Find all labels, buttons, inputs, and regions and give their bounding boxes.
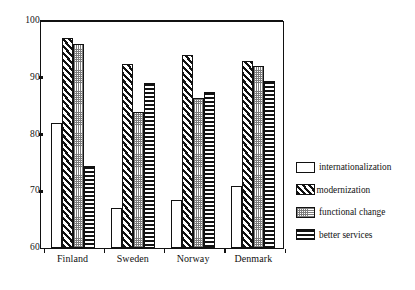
legend-item-modernization[interactable]: modernization bbox=[296, 181, 415, 199]
bar-norway-modernization bbox=[182, 55, 193, 248]
bar-sweden-functional-change bbox=[133, 112, 144, 248]
legend: internationalizationmodernizationfunctio… bbox=[296, 158, 415, 248]
swatch-dotted-icon bbox=[296, 207, 315, 218]
bar-norway-functional-change bbox=[193, 98, 204, 248]
y-tick-label-80: 80 bbox=[10, 130, 40, 140]
x-tick-1 bbox=[104, 249, 105, 253]
bar-finland-better-services bbox=[84, 166, 95, 248]
bar-denmark-better-services bbox=[264, 81, 275, 248]
bar-denmark-modernization bbox=[242, 61, 253, 248]
bar-group-sweden bbox=[111, 21, 155, 248]
bar-sweden-better-services bbox=[144, 83, 155, 248]
y-tick-label-70: 70 bbox=[10, 186, 40, 196]
swatch-horizontal-icon bbox=[296, 229, 315, 240]
bar-norway-internationalization bbox=[171, 200, 182, 248]
y-tick-label-100: 100 bbox=[10, 16, 40, 26]
swatch-diagonal-icon bbox=[296, 184, 315, 195]
bar-denmark-internationalization bbox=[231, 186, 242, 248]
y-axis: 10090807060 bbox=[0, 0, 40, 290]
plot-right-rule bbox=[283, 21, 285, 249]
chart-root: 10090807060 internationalizationmoderniz… bbox=[0, 0, 415, 290]
bar-norway-better-services bbox=[204, 92, 215, 248]
x-tick-0 bbox=[44, 249, 45, 253]
legend-label-internationalization: internationalization bbox=[319, 162, 391, 172]
legend-item-functional-change[interactable]: functional change bbox=[296, 203, 415, 221]
bar-group-norway bbox=[171, 21, 215, 248]
bar-finland-functional-change bbox=[73, 44, 84, 248]
bar-sweden-modernization bbox=[122, 64, 133, 248]
y-tick-label-60: 60 bbox=[10, 243, 40, 253]
bar-denmark-functional-change bbox=[253, 66, 264, 248]
bar-sweden-internationalization bbox=[111, 208, 122, 248]
bar-finland-internationalization bbox=[51, 123, 62, 248]
bar-finland-modernization bbox=[62, 38, 73, 248]
x-tick-3 bbox=[224, 249, 225, 253]
y-tick-mark-80 bbox=[39, 133, 43, 136]
bar-groups bbox=[42, 21, 283, 248]
y-tick-mark-70 bbox=[39, 190, 43, 193]
legend-item-better-services[interactable]: better services bbox=[296, 226, 415, 244]
legend-label-better-services: better services bbox=[319, 230, 372, 240]
bar-group-denmark bbox=[231, 21, 275, 248]
legend-label-modernization: modernization bbox=[317, 185, 371, 195]
y-tick-mark-90 bbox=[39, 76, 43, 79]
x-tick-end bbox=[285, 249, 286, 253]
x-tick-2 bbox=[164, 249, 165, 253]
legend-label-functional-change: functional change bbox=[319, 207, 385, 217]
y-tick-label-90: 90 bbox=[10, 73, 40, 83]
x-category-label-denmark: Denmark bbox=[213, 253, 293, 264]
legend-item-internationalization[interactable]: internationalization bbox=[296, 158, 415, 176]
bar-group-finland bbox=[51, 21, 95, 248]
swatch-plain-icon bbox=[296, 162, 315, 173]
